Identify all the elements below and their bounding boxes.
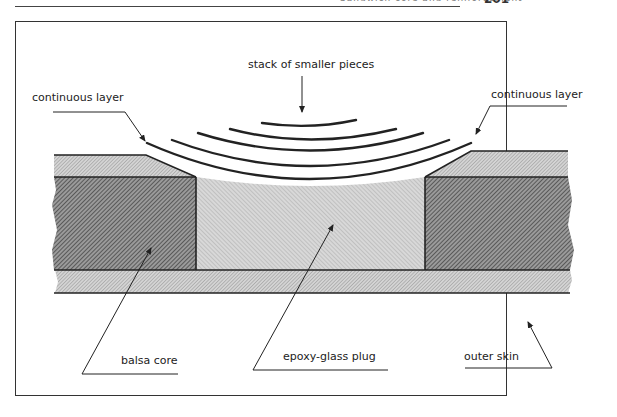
- label-outer-skin: outer skin: [464, 350, 519, 363]
- inner-skin-left: [54, 155, 196, 177]
- continuous-right-leader: [476, 106, 567, 134]
- label-stack: stack of smaller pieces: [248, 58, 375, 71]
- balsa-core-right: [425, 177, 574, 270]
- curved-laminate-stack: [147, 120, 471, 179]
- balsa-core-left: [52, 177, 196, 270]
- continuous-left-leader: [53, 112, 145, 141]
- label-epoxy-glass-plug: epoxy-glass plug: [283, 350, 376, 363]
- label-continuous-right: continuous layer: [491, 88, 583, 101]
- label-balsa-core: balsa core: [121, 354, 178, 367]
- sandwich-cross-section-diagram: stack of smaller pieces continuous layer…: [0, 0, 617, 417]
- epoxy-glass-plug: [196, 177, 425, 270]
- label-continuous-left: continuous layer: [32, 91, 124, 104]
